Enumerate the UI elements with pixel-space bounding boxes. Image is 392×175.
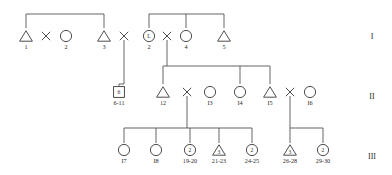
- individual-id-label: I7: [121, 157, 126, 164]
- individual-id-label: 1: [24, 43, 27, 50]
- individual-iii21: 321-23: [212, 145, 226, 165]
- individual-iii17: I7: [118, 144, 129, 164]
- individual-i4: 4: [180, 30, 191, 50]
- individual-i2b: L2: [143, 30, 154, 50]
- individual-id-label: I8: [153, 157, 158, 164]
- circle-symbol-female: [180, 30, 191, 41]
- generation-label-layer: IIIIII: [368, 32, 376, 161]
- individual-id-label: 4: [184, 43, 187, 50]
- individual-symbol-layer: 123L24566-1112I3I4I5I6I7I8219-20321-2322…: [20, 30, 331, 164]
- individual-ii13: I3: [204, 86, 215, 106]
- individual-ii14: I4: [234, 86, 245, 106]
- individual-id-label: I4: [237, 99, 242, 106]
- individual-inner-count: 3: [289, 149, 292, 155]
- circle-symbol-female: [118, 144, 129, 155]
- generation-label-III: III: [368, 152, 376, 161]
- individual-id-label: 6-11: [113, 99, 124, 106]
- individual-id-label: 12: [160, 99, 166, 106]
- individual-ii16: I6: [304, 86, 315, 106]
- individual-ii6: 66-11: [113, 87, 124, 107]
- triangle-symbol-abortus: [98, 31, 111, 41]
- individual-inner-count: 6: [118, 89, 121, 95]
- individual-ii15: I5: [264, 87, 277, 107]
- individual-iii29: 229-30: [316, 144, 330, 164]
- mating-cross-layer: [42, 32, 294, 96]
- generation-label-I: I: [371, 32, 374, 41]
- individual-id-label: I3: [207, 99, 212, 106]
- individual-id-label: 21-23: [212, 157, 226, 164]
- generation-label-II: II: [369, 92, 375, 101]
- individual-iii26: 326-28: [283, 145, 297, 165]
- individual-id-label: I5: [267, 99, 272, 106]
- cross-15-16: [286, 88, 294, 96]
- individual-i2a: 2: [60, 30, 71, 50]
- individual-iii18: I8: [150, 144, 161, 164]
- individual-inner-count: 2: [189, 147, 192, 153]
- individual-id-label: 24-25: [245, 157, 259, 164]
- cross-1-2: [42, 32, 50, 40]
- triangle-symbol-abortus: [264, 87, 277, 97]
- individual-inner-count: 2: [251, 147, 254, 153]
- individual-id-label: 2: [147, 43, 150, 50]
- pedigree-chart: 123L24566-1112I3I4I5I6I7I8219-20321-2322…: [0, 0, 392, 175]
- circle-symbol-female: [60, 30, 71, 41]
- individual-i1: 1: [20, 31, 33, 51]
- individual-ii12: 12: [157, 87, 170, 107]
- individual-iii24: 224-25: [245, 144, 259, 164]
- cross-3-2: [120, 32, 128, 40]
- individual-id-label: 29-30: [316, 157, 330, 164]
- circle-symbol-female: [204, 86, 215, 97]
- individual-i5: 5: [218, 31, 231, 51]
- individual-id-label: 19-20: [183, 157, 197, 164]
- circle-symbol-female: [304, 86, 315, 97]
- individual-inner-count: 3: [218, 149, 221, 155]
- individual-id-label: I6: [307, 99, 312, 106]
- circle-symbol-female: [150, 144, 161, 155]
- circle-symbol-female: [234, 86, 245, 97]
- individual-iii19: 219-20: [183, 144, 197, 164]
- triangle-symbol-abortus: [218, 31, 231, 41]
- individual-id-label: 5: [222, 43, 225, 50]
- triangle-symbol-abortus: [20, 31, 33, 41]
- individual-id-label: 26-28: [283, 157, 297, 164]
- individual-id-label: 2: [64, 43, 67, 50]
- individual-id-label: 3: [102, 43, 105, 50]
- triangle-symbol-abortus: [157, 87, 170, 97]
- individual-inner-count: L: [147, 33, 151, 39]
- individual-inner-count: 2: [322, 147, 325, 153]
- cross-2-4: [163, 32, 171, 40]
- cross-12-13: [183, 88, 191, 96]
- pedigree-canvas: 123L24566-1112I3I4I5I6I7I8219-20321-2322…: [0, 0, 392, 175]
- individual-i3: 3: [98, 31, 111, 51]
